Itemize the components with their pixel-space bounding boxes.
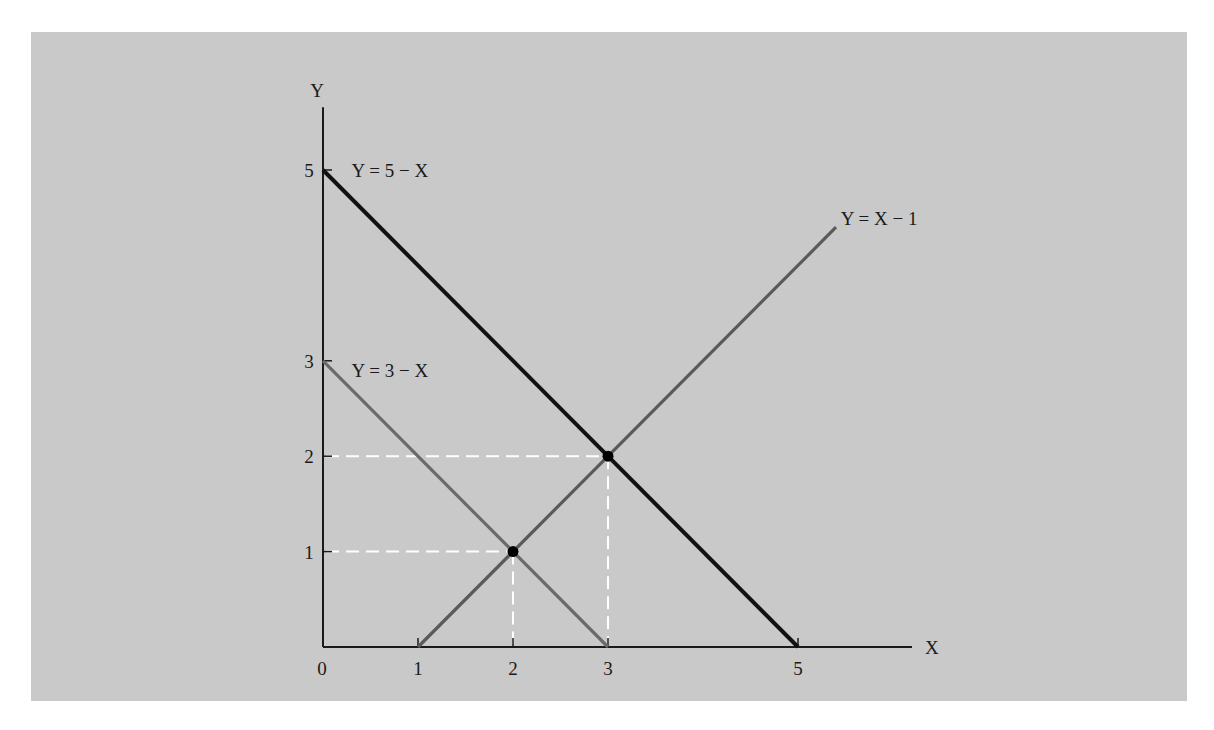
series-label-1: Y = 5 − X <box>352 160 429 181</box>
x-tick-label: 3 <box>603 658 613 679</box>
intersection-point <box>508 546 519 557</box>
y-tick-label: 5 <box>304 160 314 181</box>
series-line-1 <box>323 170 798 647</box>
intersection-point <box>603 451 614 462</box>
series-line-3 <box>418 227 836 647</box>
x-tick-label: 5 <box>793 658 803 679</box>
y-tick-label: 2 <box>304 446 314 467</box>
x-tick-label: 2 <box>508 658 518 679</box>
series-label-3: Y = X − 1 <box>841 208 918 229</box>
x-tick-label: 0 <box>317 658 327 679</box>
y-tick-label: 3 <box>304 351 314 372</box>
y-axis-label: Y <box>310 80 324 101</box>
y-tick-label: 1 <box>304 542 314 563</box>
chart: XY012351235Y = 5 − XY = 3 − XY = X − 1 <box>0 0 1214 730</box>
x-axis-label: X <box>925 637 939 658</box>
x-tick-label: 1 <box>413 658 423 679</box>
series-label-2: Y = 3 − X <box>352 360 429 381</box>
series-line-2 <box>323 361 608 647</box>
